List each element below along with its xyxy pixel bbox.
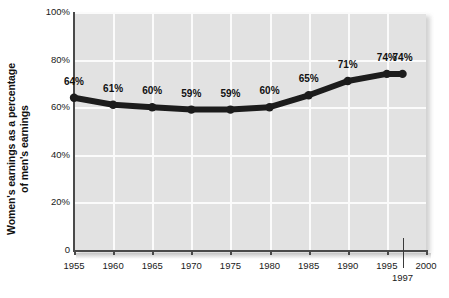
- x-axis-tick: [270, 250, 272, 255]
- x-axis-tick-label: 1960: [91, 260, 135, 271]
- x-axis-tick-label: 1975: [208, 260, 252, 271]
- data-point-marker: [344, 77, 352, 85]
- x-axis-tick-label: 1970: [169, 260, 213, 271]
- data-point-label: 74%: [383, 52, 423, 63]
- x-axis-tick: [309, 250, 311, 255]
- data-point-marker: [398, 70, 406, 78]
- x-axis-tick-1997: [403, 238, 405, 268]
- data-point-marker: [226, 105, 234, 113]
- y-axis-title: Women's earnings as a percentage of men'…: [0, 24, 36, 274]
- x-axis-shadow: [76, 253, 431, 259]
- y-axis-tick-label: 20%: [36, 197, 70, 207]
- data-point-label: 71%: [328, 59, 368, 70]
- y-axis-tick-label: 40%: [36, 150, 70, 160]
- data-point-marker: [383, 70, 391, 78]
- x-axis-tick: [152, 250, 154, 255]
- x-axis-line: [73, 250, 428, 252]
- x-axis-tick: [191, 250, 193, 255]
- data-point-label: 61%: [93, 83, 133, 94]
- data-point-marker: [70, 93, 78, 101]
- x-axis-tick: [387, 250, 389, 255]
- x-axis-tick: [426, 250, 428, 255]
- series-line-group: [74, 12, 426, 250]
- x-axis-tick: [113, 250, 115, 255]
- data-point-marker: [265, 103, 273, 111]
- x-axis-tick-label: 1980: [248, 260, 292, 271]
- y-axis-tick-label: 100%: [36, 7, 70, 17]
- data-point-marker: [148, 103, 156, 111]
- data-point-marker: [109, 101, 117, 109]
- line-chart: Women's earnings as a percentage of men'…: [0, 0, 449, 298]
- y-axis-title-line-1: Women's earnings as a percentage: [5, 63, 18, 235]
- y-axis-title-line-2: of men's earnings: [18, 105, 31, 193]
- y-axis-tick-label: 60%: [36, 102, 70, 112]
- data-point-label: 65%: [289, 73, 329, 84]
- x-axis-tick-label-1997: 1997: [381, 272, 425, 283]
- data-point-marker: [187, 105, 195, 113]
- data-point-label: 59%: [210, 88, 250, 99]
- y-axis-tick-labels: 020%40%60%80%100%: [36, 0, 70, 298]
- data-point-label: 60%: [250, 85, 290, 96]
- x-axis-tick-label: 2000: [404, 260, 448, 271]
- x-axis-tick: [230, 250, 232, 255]
- data-point-label: 59%: [171, 88, 211, 99]
- x-axis-tick-label: 1985: [287, 260, 331, 271]
- data-point-marker: [304, 91, 312, 99]
- x-axis-tick-label: 1990: [326, 260, 370, 271]
- x-axis-tick-label: 1965: [130, 260, 174, 271]
- x-axis-tick: [348, 250, 350, 255]
- data-point-label: 60%: [132, 85, 172, 96]
- x-axis-tick: [74, 250, 76, 255]
- x-axis-tick-label: 1955: [52, 260, 96, 271]
- data-point-label: 64%: [54, 76, 94, 87]
- y-axis-tick-label: 0: [36, 245, 70, 255]
- y-axis-tick-label: 80%: [36, 55, 70, 65]
